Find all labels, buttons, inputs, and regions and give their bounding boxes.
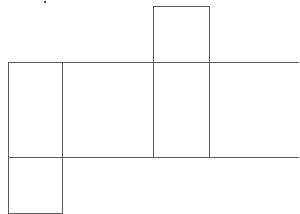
diagram-marks	[44, 1, 46, 3]
side-face	[154, 63, 210, 158]
left-face	[9, 63, 63, 158]
front-face	[63, 63, 154, 158]
net-diagram	[0, 0, 299, 214]
diagram-faces	[9, 7, 300, 214]
bottom-flap	[9, 158, 63, 214]
top-flap	[154, 7, 210, 63]
dot-mark	[44, 1, 46, 3]
